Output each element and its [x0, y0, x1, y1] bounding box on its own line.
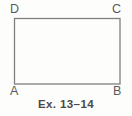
vertex-label-a: A — [10, 85, 19, 98]
rectangle-outline — [15, 19, 121, 85]
figure-container: D C A B Ex. 13–14 — [0, 0, 132, 116]
figure-caption: Ex. 13–14 — [0, 98, 132, 110]
vertex-label-b: B — [113, 85, 122, 98]
vertex-label-d: D — [10, 3, 19, 16]
vertex-label-c: C — [112, 3, 121, 16]
